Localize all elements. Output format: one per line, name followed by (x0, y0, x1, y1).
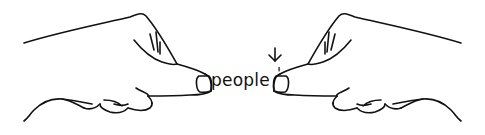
illustration-canvas: people ' (0, 0, 485, 135)
arrow-down-icon (269, 48, 281, 61)
word-text: people (211, 70, 270, 90)
pinching-hands-drawing (0, 0, 485, 135)
right-hand-icon (273, 14, 461, 121)
apostrophe-mark: ' (277, 66, 281, 82)
left-hand-icon (24, 14, 212, 121)
